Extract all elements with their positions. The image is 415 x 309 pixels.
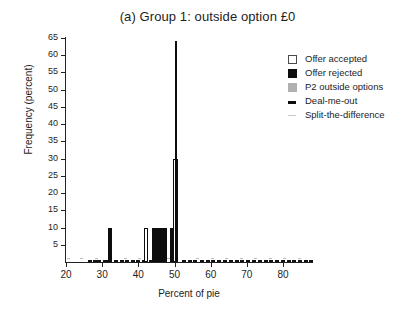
split-the-difference-marker: [196, 258, 199, 259]
legend-label: Offer accepted: [305, 54, 367, 64]
y-axis-title: Frequency (percent): [23, 30, 34, 190]
deal-me-out-marker: [235, 260, 239, 262]
filled-square-icon: [288, 69, 297, 78]
y-axis-tick-label: 65: [30, 33, 58, 42]
deal-me-out-marker: [246, 260, 250, 262]
deal-me-out-marker: [264, 260, 268, 262]
x-axis-tick-label: 40: [123, 270, 153, 280]
split-the-difference-marker: [124, 258, 127, 259]
deal-me-out-marker: [287, 260, 291, 262]
deal-me-out-marker: [136, 260, 140, 262]
deal-me-out-marker: [120, 260, 124, 262]
legend-label: P2 outside options: [305, 82, 383, 92]
deal-me-out-marker: [114, 260, 118, 262]
legend-item: P2 outside options: [288, 80, 415, 94]
x-axis-tick-label: 70: [232, 270, 262, 280]
x-axis-tick-label: 30: [87, 270, 117, 280]
x-axis-tick-label: 60: [196, 270, 226, 280]
deal-me-out-marker: [200, 260, 204, 262]
deal-me-out-marker: [131, 260, 135, 262]
deal-me-out-marker: [304, 260, 308, 262]
bar: [170, 228, 174, 262]
x-axis-tick: [283, 262, 284, 267]
deal-me-out-marker: [223, 260, 227, 262]
y-axis-tick-label: 25: [30, 171, 58, 180]
deal-me-out-marker: [258, 260, 262, 262]
deal-me-out-marker: [252, 260, 256, 262]
gray-square-icon: [288, 83, 297, 92]
legend-label: Split-the-difference: [305, 110, 385, 120]
deal-me-out-marker: [206, 260, 210, 262]
deal-me-out-marker: [188, 260, 192, 262]
split-the-difference-marker: [283, 258, 286, 259]
bar: [108, 228, 111, 262]
bar: [152, 228, 167, 262]
split-the-difference-marker: [298, 258, 301, 259]
deal-me-out-marker: [292, 260, 296, 262]
split-the-difference-marker: [67, 258, 70, 259]
x-axis-tick-label: 20: [51, 270, 81, 280]
legend-item: Offer rejected: [288, 66, 415, 80]
deal-me-out-marker: [275, 260, 279, 262]
legend-item: Offer accepted: [288, 52, 415, 66]
split-the-difference-marker: [138, 258, 141, 259]
deal-me-out-marker: [281, 260, 285, 262]
deal-me-out-baseline: [66, 260, 312, 262]
y-axis-tick-label: 50: [30, 85, 58, 94]
split-the-difference-marker: [211, 258, 214, 259]
split-the-difference-marker: [95, 258, 98, 259]
x-axis-tick: [102, 262, 103, 267]
split-the-difference-marker: [225, 258, 228, 259]
chart-figure: (a) Group 1: outside option £0 510152025…: [0, 0, 415, 309]
deal-me-out-marker: [298, 260, 302, 262]
legend-item: Deal-me-out: [288, 94, 415, 108]
chart-legend: Offer acceptedOffer rejectedP2 outside o…: [288, 52, 415, 122]
chart-title: (a) Group 1: outside option £0: [0, 9, 415, 24]
plot-area: [66, 38, 312, 262]
legend-label: Offer rejected: [305, 68, 362, 78]
deal-me-out-marker: [193, 260, 197, 262]
y-axis-tick-label: 10: [30, 223, 58, 232]
x-axis-tick: [211, 262, 212, 267]
split-the-difference-marker: [254, 258, 257, 259]
open-square-icon: [288, 55, 297, 64]
y-axis-tick-label: 35: [30, 136, 58, 145]
dash-icon: [288, 97, 297, 106]
deal-me-out-marker: [240, 260, 244, 262]
y-axis-tick-label: 45: [30, 102, 58, 111]
deal-me-out-marker: [229, 260, 233, 262]
x-axis-tick: [175, 262, 176, 267]
light-dash-icon: [288, 111, 297, 120]
y-axis-tick-label: 15: [30, 205, 58, 214]
bar: [144, 228, 148, 262]
y-axis-tick-label: 55: [30, 67, 58, 76]
x-axis-tick: [138, 262, 139, 267]
legend-item: Split-the-difference: [288, 108, 415, 122]
x-axis-tick-label: 80: [268, 270, 298, 280]
deal-me-out-marker: [88, 260, 92, 262]
bar: [175, 41, 177, 262]
deal-me-out-marker: [103, 260, 107, 262]
deal-me-out-marker: [182, 260, 186, 262]
deal-me-out-marker: [125, 260, 129, 262]
x-axis-tick: [247, 262, 248, 267]
y-axis-tick-label: 30: [30, 154, 58, 163]
split-the-difference-marker: [240, 258, 243, 259]
y-axis-tick-label: 60: [30, 50, 58, 59]
y-axis-tick-label: 40: [30, 119, 58, 128]
y-axis-tick-label: 5: [30, 240, 58, 249]
deal-me-out-marker: [269, 260, 273, 262]
split-the-difference-marker: [269, 258, 272, 259]
deal-me-out-marker: [97, 260, 101, 262]
deal-me-out-marker: [309, 260, 313, 262]
x-axis-title: Percent of pie: [66, 288, 312, 299]
x-axis-tick-label: 50: [160, 270, 190, 280]
x-axis-tick: [66, 262, 67, 267]
deal-me-out-marker: [211, 260, 215, 262]
y-axis-tick-label: 20: [30, 188, 58, 197]
deal-me-out-marker: [217, 260, 221, 262]
legend-label: Deal-me-out: [305, 96, 357, 106]
split-the-difference-marker: [80, 258, 83, 259]
